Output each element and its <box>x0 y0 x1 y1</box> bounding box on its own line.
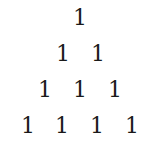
triangle-cell: 1 <box>105 75 125 105</box>
number-triangle: 1 1 1 1 1 1 1 1 1 1 <box>0 0 144 156</box>
triangle-cell: 1 <box>35 75 55 105</box>
triangle-cell: 1 <box>70 3 90 33</box>
triangle-row-1: 1 <box>0 3 144 33</box>
triangle-cell: 1 <box>122 111 142 141</box>
triangle-cell: 1 <box>70 75 90 105</box>
triangle-row-2: 1 1 <box>0 39 144 69</box>
triangle-cell: 1 <box>88 39 108 69</box>
triangle-row-4: 1 1 1 1 <box>0 111 144 141</box>
triangle-row-3: 1 1 1 <box>0 75 144 105</box>
triangle-cell: 1 <box>53 39 73 69</box>
triangle-cell: 1 <box>18 111 38 141</box>
triangle-cell: 1 <box>87 111 107 141</box>
triangle-cell: 1 <box>52 111 72 141</box>
